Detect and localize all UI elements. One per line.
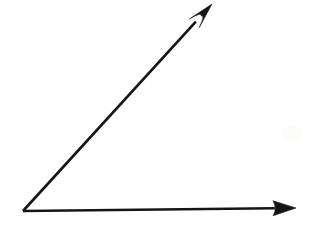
angle-diagram-svg: [0, 0, 317, 237]
paper-smudge: [283, 125, 301, 141]
angle-figure: Angle formed by two rays: [0, 0, 317, 237]
canvas-background: [0, 0, 317, 237]
